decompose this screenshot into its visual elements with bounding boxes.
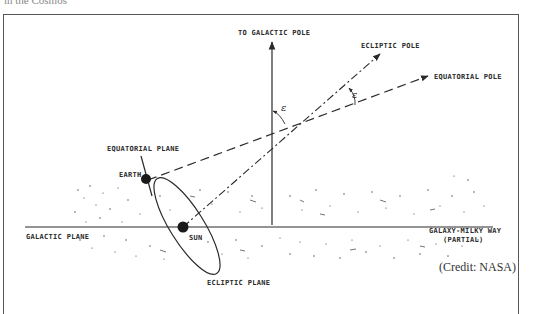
- label-ecliptic-plane: ECLIPTIC PLANE: [207, 279, 270, 287]
- credit-text: (Credit: NASA): [439, 260, 516, 274]
- label-sun: SUN: [189, 234, 203, 242]
- label-equatorial-pole: EQUATORIAL POLE: [434, 73, 502, 81]
- label-ecliptic-pole: ECLIPTIC POLE: [361, 42, 420, 50]
- label-galactic-plane: GALACTIC PLANE: [26, 233, 89, 241]
- label-galaxy-milky-way: GALAXY-MILKY WAY: [429, 227, 502, 235]
- label-galactic-pole: TO GALACTIC POLE: [238, 29, 310, 37]
- sun-marker: [178, 222, 189, 233]
- label-angle-lower: ε: [352, 89, 357, 100]
- earth-marker: [141, 174, 151, 184]
- label-earth: EARTH: [119, 171, 142, 179]
- ecliptic-pole-axis: [183, 54, 380, 227]
- label-galaxy-partial: (PARTIAL): [443, 236, 484, 244]
- label-equatorial-plane: EQUATORIAL PLANE: [107, 145, 179, 153]
- star-field: [74, 175, 484, 259]
- label-angle-upper: ε: [281, 102, 286, 113]
- equatorial-pole-axis: [148, 76, 428, 180]
